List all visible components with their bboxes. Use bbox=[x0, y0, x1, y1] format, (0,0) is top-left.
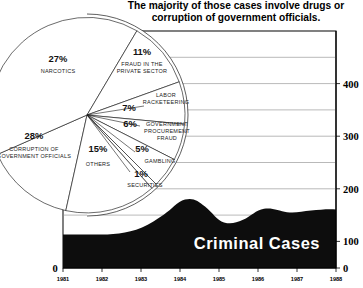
x-axis-label-1987: 1987 bbox=[291, 276, 303, 282]
x-axis-label-1985: 1985 bbox=[213, 276, 225, 282]
pie-label-pct-procurement-fraud: 6% bbox=[123, 118, 137, 129]
area-series-title: Criminal Cases bbox=[194, 234, 320, 252]
pie-label-text-fraud-private-1: FRAUD IN THE bbox=[121, 61, 162, 67]
pie-label-pct-others: 15% bbox=[89, 143, 108, 154]
pie-label-text-procurement-fraud-2: PROCUREMENT bbox=[144, 128, 190, 134]
x-axis-label-1982: 1982 bbox=[96, 276, 108, 282]
pie-label-text-procurement-fraud-1: GOVERNMENT bbox=[146, 121, 188, 127]
y-axis-label-300: 300 bbox=[343, 131, 359, 142]
x-axis-label-1983: 1983 bbox=[135, 276, 147, 282]
pie-label-pct-labor-racketeering: 7% bbox=[122, 102, 136, 113]
headline-line-1: The majority of those cases involve drug… bbox=[128, 0, 344, 11]
pie-label-text-procurement-fraud-3: FRAUD bbox=[157, 135, 177, 141]
pie-label-text-fraud-private-2: PRIVATE SECTOR bbox=[117, 68, 168, 74]
y-axis-label-200: 200 bbox=[343, 184, 359, 195]
pie-label-text-securities: SECURITIES bbox=[127, 182, 163, 188]
x-axis-label-1988: 1988 bbox=[330, 276, 342, 282]
y-axis-label-400: 400 bbox=[343, 79, 359, 90]
pie-label-pct-fraud-private: 11% bbox=[133, 46, 152, 57]
infographic-root: The majority of those cases involve drug… bbox=[0, 0, 363, 288]
pie-label-pct-gambling: 5% bbox=[135, 143, 149, 154]
pie-label-pct-corruption: 28% bbox=[25, 130, 44, 141]
pie-label-text-corruption-1: CORRUPTION OF bbox=[9, 146, 59, 152]
y-axis-left-zero-label: 0 bbox=[52, 263, 57, 274]
pie-label-text-labor-racketeering-2: RACKETEERING bbox=[143, 99, 189, 105]
pie-label-text-others: OTHERS bbox=[86, 161, 111, 167]
pie-label-text-corruption-2: GOVERNMENT OFFICIALS bbox=[0, 153, 71, 159]
y-axis-label-0: 0 bbox=[343, 263, 348, 274]
pie-label-text-gambling: GAMBLING bbox=[144, 158, 175, 164]
y-axis-label-100: 100 bbox=[343, 236, 359, 247]
x-axis-label-1984: 1984 bbox=[174, 276, 187, 282]
pie-label-pct-securities: 1% bbox=[134, 168, 148, 179]
pie-label-text-labor-racketeering-1: LABOR bbox=[156, 92, 176, 98]
x-axis-label-1981: 1981 bbox=[57, 276, 69, 282]
pie-label-text-narcotics: NARCOTICS bbox=[41, 68, 76, 74]
headline-line-2: corruption of government officials. bbox=[152, 12, 321, 23]
infographic-canvas: The majority of those cases involve drug… bbox=[0, 0, 363, 288]
x-axis-label-1986: 1986 bbox=[252, 276, 264, 282]
pie-label-pct-narcotics: 27% bbox=[49, 53, 68, 64]
